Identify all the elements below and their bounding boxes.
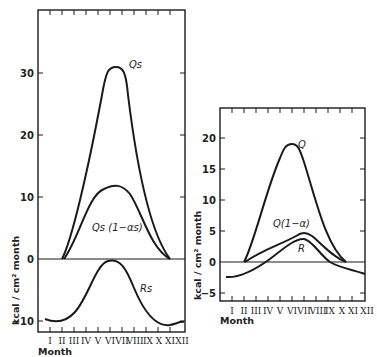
series-rs-line xyxy=(45,260,184,325)
svg-text:IV: IV xyxy=(263,306,274,316)
right-xlabel: Month xyxy=(220,315,254,326)
svg-text:II: II xyxy=(58,336,66,346)
svg-text:XI: XI xyxy=(165,336,175,346)
svg-text:XII: XII xyxy=(175,336,189,346)
right-y-ticks xyxy=(220,138,365,293)
figure: 30 20 10 0 −10 Qs Qs (1−αs) Rs I II III … xyxy=(0,0,377,357)
right-ytick-15: 15 xyxy=(202,164,216,175)
left-ylabel: kcal / cm² month xyxy=(10,236,21,325)
left-xlabel: Month xyxy=(38,346,72,357)
left-ytick-30: 30 xyxy=(20,68,34,79)
left-plot-frame xyxy=(38,10,185,332)
series-q-albedo-line xyxy=(245,233,346,262)
series-q-line xyxy=(244,144,346,262)
right-plot-frame xyxy=(220,108,365,301)
svg-text:V: V xyxy=(276,306,284,316)
label-q: Q xyxy=(298,139,306,150)
svg-text:V: V xyxy=(94,336,102,346)
right-ytick-5: 5 xyxy=(209,226,216,237)
svg-text:VI: VI xyxy=(286,306,297,316)
left-bottom-ticks xyxy=(50,327,170,332)
svg-text:IX: IX xyxy=(325,306,336,316)
label-qs: Qs xyxy=(129,59,142,70)
right-ytick-10: 10 xyxy=(202,195,216,206)
label-rs: Rs xyxy=(140,283,152,294)
left-month-labels: I II III IV V VI VII VIII IX X XI XII xyxy=(48,336,189,346)
svg-text:IV: IV xyxy=(81,336,92,346)
left-y-ticks xyxy=(38,73,185,321)
svg-text:VIII: VIII xyxy=(125,336,144,346)
right-chart: 20 15 10 5 0 −5 Q Q(1−α) R I II III IV V… xyxy=(192,108,374,326)
left-ytick-10: 10 xyxy=(20,192,34,203)
label-r: R xyxy=(298,243,305,254)
svg-text:VI: VI xyxy=(104,336,115,346)
svg-text:X: X xyxy=(156,336,163,346)
right-ytick-20: 20 xyxy=(202,133,216,144)
right-top-ticks xyxy=(232,108,352,113)
svg-text:XI: XI xyxy=(348,306,358,316)
svg-text:XII: XII xyxy=(360,306,374,316)
svg-text:III: III xyxy=(69,336,80,346)
label-q-albedo: Q(1−α) xyxy=(273,218,310,229)
left-chart: 30 20 10 0 −10 Qs Qs (1−αs) Rs I II III … xyxy=(10,10,189,357)
right-bottom-ticks xyxy=(232,296,352,301)
left-ytick-0: 0 xyxy=(27,254,34,265)
left-ytick-20: 20 xyxy=(20,130,34,141)
left-top-ticks xyxy=(50,10,170,15)
svg-text:X: X xyxy=(339,306,346,316)
label-qs-albedo: Qs (1−αs) xyxy=(92,222,143,233)
svg-text:I: I xyxy=(48,336,52,346)
right-ytick-0: 0 xyxy=(209,257,216,268)
right-ylabel: kcal / cm² month xyxy=(192,211,203,300)
svg-text:IX: IX xyxy=(143,336,154,346)
